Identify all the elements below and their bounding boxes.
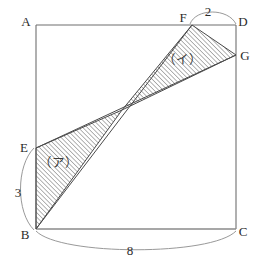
measure-arc-bc	[36, 231, 236, 250]
vertex-label-d: D	[238, 14, 247, 29]
measure-arc-fd	[190, 12, 236, 24]
measure-label-fd: 2	[205, 4, 212, 19]
line-e-g	[36, 55, 236, 148]
vertex-label-c: C	[239, 224, 248, 239]
vertex-label-e: E	[20, 140, 28, 155]
vertex-label-f: F	[179, 10, 186, 25]
shaded-triangle-b	[122, 25, 236, 110]
geometry-figure: A B C D E F G （ア） （イ） 3 2 8	[0, 0, 262, 266]
vertex-label-b: B	[21, 227, 30, 242]
measure-arc-be	[21, 148, 35, 230]
vertex-label-g: G	[240, 48, 249, 63]
geometry-canvas: A B C D E F G （ア） （イ） 3 2 8	[0, 0, 262, 266]
region-label-a: （ア）	[39, 156, 78, 170]
measure-label-bc: 8	[127, 243, 134, 258]
vertex-label-a: A	[21, 14, 31, 29]
measure-label-be: 3	[15, 185, 22, 200]
region-label-b: （イ）	[163, 53, 202, 67]
